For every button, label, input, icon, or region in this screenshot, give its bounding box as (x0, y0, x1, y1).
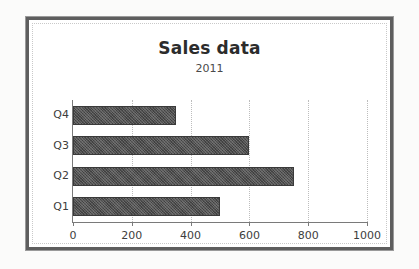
x-axis-tick-label: 400 (180, 229, 201, 242)
bar-q1 (73, 197, 220, 216)
bar-row (73, 136, 367, 155)
x-axis-tick-mark (73, 222, 74, 226)
y-axis-tick-labels: Q4Q3Q2Q1 (39, 100, 69, 222)
plot-area: Q4Q3Q2Q1 02004006008001000 (72, 100, 367, 223)
y-axis-tick-label-q4: Q4 (39, 108, 69, 121)
x-axis-tick-labels: 02004006008001000 (73, 222, 367, 244)
bar-row (73, 167, 367, 186)
scanned-page: Sales data 2011 Q4Q3Q2Q1 020040060080010… (0, 0, 419, 269)
bar-q4 (73, 106, 176, 125)
x-axis-tick-label: 200 (121, 229, 142, 242)
chart-subtitle: 2011 (33, 62, 386, 75)
x-axis-tick-label: 800 (298, 229, 319, 242)
x-axis-tick-label: 1000 (353, 229, 381, 242)
bar-series (73, 100, 367, 222)
y-axis-tick-label-q3: Q3 (39, 139, 69, 152)
gridline (367, 100, 368, 222)
y-axis-tick-label-q1: Q1 (39, 200, 69, 213)
x-axis-tick-mark (132, 222, 133, 226)
bar-row (73, 106, 367, 125)
x-axis-tick-mark (249, 222, 250, 226)
chart-title: Sales data (33, 38, 386, 58)
chart-frame: Sales data 2011 Q4Q3Q2Q1 020040060080010… (26, 17, 393, 250)
x-axis-tick-mark (191, 222, 192, 226)
chart-plot-container: Sales data 2011 Q4Q3Q2Q1 020040060080010… (32, 23, 387, 244)
x-axis-tick-mark (308, 222, 309, 226)
bar-q2 (73, 167, 294, 186)
x-axis-tick-label: 0 (70, 229, 77, 242)
bar-q3 (73, 136, 249, 155)
x-axis-tick-mark (367, 222, 368, 226)
y-axis-tick-label-q2: Q2 (39, 169, 69, 182)
x-axis-tick-label: 600 (239, 229, 260, 242)
bar-row (73, 197, 367, 216)
